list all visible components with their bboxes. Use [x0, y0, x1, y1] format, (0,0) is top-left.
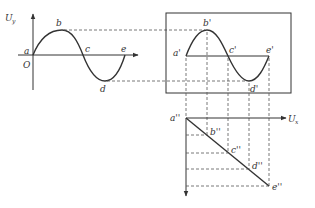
point-a-prime-label: a' — [173, 48, 181, 58]
point-b-label: b — [56, 18, 62, 28]
point-a-label: a — [24, 46, 29, 56]
point-e-dprime-label: e'' — [272, 182, 282, 192]
sweep-graph: U x a'' b'' c'' d'' e'' — [170, 113, 299, 196]
point-e-prime-label: e' — [266, 45, 274, 55]
diagram-canvas: U y O a b c d e a' b' c' d' e' — [0, 0, 315, 208]
point-d-label: d — [100, 84, 106, 94]
point-c-label: c — [85, 44, 90, 54]
point-d-dprime-label: d'' — [252, 161, 263, 171]
sweep-ramp-line — [186, 118, 269, 186]
point-e-label: e — [121, 44, 126, 54]
point-a-dprime-label: a'' — [170, 113, 180, 123]
left-graph: U y O a b c d e — [5, 13, 138, 94]
point-c-prime-label: c' — [229, 45, 237, 55]
point-b-prime-label: b' — [203, 18, 211, 28]
origin-label: O — [23, 60, 31, 70]
ux-axis-subscript: x — [295, 118, 299, 125]
point-c-dprime-label: c'' — [231, 145, 241, 155]
point-b-dprime-label: b'' — [210, 127, 221, 137]
point-d-prime-label: d' — [250, 84, 258, 94]
y-axis-subscript: y — [11, 17, 16, 25]
oscilloscope-screen: a' b' c' d' e' — [166, 13, 291, 94]
